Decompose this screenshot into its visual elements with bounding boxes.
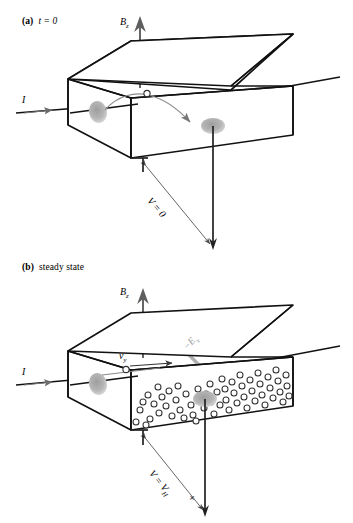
electron-a xyxy=(144,90,150,96)
b-field-label-b: Bz xyxy=(120,287,129,300)
hall-effect-figure: (a)t = 0 xyxy=(0,0,353,523)
drift-velocity-label-b: vy xyxy=(119,351,126,364)
current-label-a: I xyxy=(22,95,25,105)
slab-body-a xyxy=(68,34,293,158)
current-label-b: I xyxy=(22,367,25,377)
b-field-label-a: Bz xyxy=(120,17,129,30)
panel-b-drawing xyxy=(0,258,353,523)
voltage-arrow-a xyxy=(131,158,210,244)
panel-a-drawing xyxy=(0,0,353,258)
panel-a: (a)t = 0 xyxy=(0,0,353,258)
panel-b: (b)steady state xyxy=(0,258,353,523)
